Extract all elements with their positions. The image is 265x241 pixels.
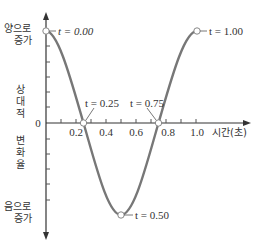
y-zero-label: 0 [35,117,41,129]
annotation-t075: t = 0.75 [130,97,165,109]
y-axis-up-arrow-icon [43,12,49,20]
x-tick-0.4: 0.4 [99,126,113,138]
x-axis-arrow-icon [243,120,251,126]
point-t100 [194,28,200,34]
svg-text:변: 변 [16,135,25,146]
point-t075 [155,120,161,126]
annotation-t100: t = 1.00 [209,25,244,37]
y-axis-down-arrow-icon [43,232,49,240]
svg-text:화: 화 [16,147,25,158]
svg-text:율: 율 [16,159,25,170]
y-axis-label: 상 대 적 변 화 율 [16,84,25,170]
svg-text:적: 적 [16,108,25,119]
y-top-label-line1: 양으로 [4,23,31,34]
point-t025 [80,120,86,126]
y-top-label-line2: 증가 [14,35,32,46]
annotation-t0: t = 0.00 [58,25,94,37]
y-bottom-label-line1: 음으로 [4,201,31,212]
y-bottom-label-line2: 증가 [14,213,32,224]
x-tick-0.6: 0.6 [129,126,143,138]
cosine-chart: 0.2 0.4 0.6 0.8 1.0 0 시간(초) 양으로 증가 음으로 증… [0,0,265,241]
svg-text:대: 대 [16,96,25,107]
x-tick-0.8: 0.8 [161,126,175,138]
annotation-t050: t = 0.50 [135,209,170,221]
x-tick-1.0: 1.0 [190,126,204,138]
annotation-t025: t = 0.25 [85,97,120,109]
point-t050 [118,212,124,218]
x-tick-0.2: 0.2 [69,126,83,138]
svg-text:상: 상 [16,84,25,95]
x-axis-label: 시간(초) [212,127,247,138]
point-t0 [43,28,49,34]
